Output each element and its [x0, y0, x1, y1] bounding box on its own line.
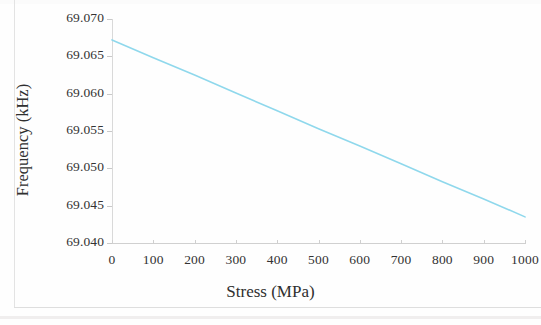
scan-artifact-bottom-edge — [14, 307, 541, 308]
y-tick-label: 69.040 — [66, 234, 104, 250]
x-tick-label: 700 — [391, 252, 412, 268]
x-tick-label: 100 — [143, 252, 164, 268]
y-tick-label: 69.070 — [66, 10, 104, 26]
x-tick-label: 200 — [184, 252, 205, 268]
y-axis-title-text: Frequency (kHz) — [13, 84, 33, 196]
x-tick-label: 1000 — [511, 252, 539, 268]
y-tick-label: 69.060 — [66, 85, 104, 101]
x-tick-label: 400 — [267, 252, 288, 268]
x-tick-label: 500 — [308, 252, 329, 268]
x-axis-title-text: Stress (MPa) — [226, 282, 314, 301]
y-axis-title: Frequency (kHz) — [14, 50, 32, 230]
figure-canvas: 69.04069.04569.05069.05569.06069.06569.0… — [0, 0, 541, 325]
y-tick-label: 69.055 — [66, 122, 104, 138]
x-tick-label: 600 — [349, 252, 370, 268]
scan-artifact-top — [0, 0, 541, 4]
y-tick-label: 69.065 — [66, 47, 104, 63]
data-series-line — [112, 19, 525, 243]
x-tick-label: 300 — [225, 252, 246, 268]
x-tick-mark — [525, 240, 526, 244]
scan-artifact-band — [0, 316, 541, 319]
x-tick-label: 900 — [473, 252, 494, 268]
x-tick-label: 800 — [432, 252, 453, 268]
y-tick-label: 69.050 — [66, 159, 104, 175]
x-axis-title: Stress (MPa) — [0, 282, 541, 302]
y-tick-label: 69.045 — [66, 197, 104, 213]
x-tick-label: 0 — [109, 252, 116, 268]
